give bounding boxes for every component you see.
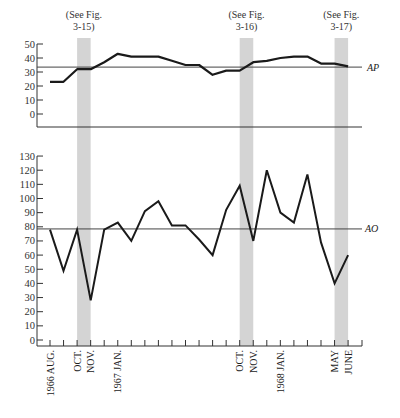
y-tick-label: 130 bbox=[19, 151, 35, 162]
y-tick-label: 20 bbox=[25, 81, 36, 92]
y-tick-label: 10 bbox=[25, 320, 36, 331]
figure-reference-note: (See Fig. bbox=[228, 9, 264, 21]
highlight-band bbox=[77, 38, 91, 346]
y-tick-label: 40 bbox=[25, 278, 36, 289]
chart-canvas: (See Fig.3-15)(See Fig.3-16)(See Fig.3-1… bbox=[0, 0, 400, 418]
y-tick-label: 50 bbox=[25, 264, 36, 275]
y-tick-label: 80 bbox=[25, 221, 36, 232]
ao-series-line bbox=[50, 170, 348, 300]
chart-figure: (See Fig.3-15)(See Fig.3-16)(See Fig.3-1… bbox=[0, 0, 400, 418]
figure-reference-note: 3-15) bbox=[73, 21, 95, 33]
y-tick-label: 10 bbox=[25, 95, 36, 106]
y-tick-label: 20 bbox=[25, 306, 36, 317]
y-tick-label: 40 bbox=[25, 53, 36, 64]
y-tick-label: 110 bbox=[20, 179, 35, 190]
x-tick-label: OCT. bbox=[234, 350, 245, 372]
y-tick-label: 50 bbox=[25, 39, 36, 50]
ap-reference-label: AP bbox=[366, 62, 379, 73]
y-tick-label: 30 bbox=[25, 292, 36, 303]
y-tick-label: 0 bbox=[30, 109, 35, 120]
highlight-band bbox=[335, 38, 349, 346]
data-series bbox=[50, 54, 348, 301]
x-tick-label: NOV. bbox=[248, 350, 259, 373]
y-tick-label: 100 bbox=[19, 193, 35, 204]
x-tick-label: NOV. bbox=[85, 350, 96, 373]
ao-reference-label: AO bbox=[364, 223, 378, 234]
y-tick-label: 30 bbox=[25, 67, 36, 78]
figure-reference-note: (See Fig. bbox=[323, 9, 359, 21]
y-tick-label: 120 bbox=[19, 165, 35, 176]
x-axis: 1966 AUG.OCT.NOV.1967 JAN.OCT.NOV.1968 J… bbox=[37, 340, 362, 396]
figure-reference-note: 3-16) bbox=[236, 21, 258, 33]
x-tick-label: MAY bbox=[329, 350, 340, 372]
x-tick-label: 1967 JAN. bbox=[112, 350, 123, 393]
figure-reference-notes: (See Fig.3-15)(See Fig.3-16)(See Fig.3-1… bbox=[66, 9, 360, 33]
figure-reference-note: (See Fig. bbox=[66, 9, 102, 21]
ap-series-line bbox=[50, 54, 348, 82]
upper-y-axis: 01020304050 bbox=[25, 39, 363, 128]
highlight-bands bbox=[77, 38, 348, 346]
x-tick-label: OCT. bbox=[72, 350, 83, 372]
y-tick-label: 0 bbox=[30, 335, 35, 346]
x-tick-label: 1966 AUG. bbox=[45, 350, 56, 396]
lower-y-axis: 0102030405060708090100110120130 bbox=[19, 151, 43, 346]
x-tick-label: JUNE bbox=[343, 350, 354, 374]
figure-reference-note: 3-17) bbox=[330, 21, 352, 33]
x-tick-label: 1968 JAN. bbox=[275, 350, 286, 393]
y-tick-label: 60 bbox=[25, 250, 36, 261]
y-tick-label: 70 bbox=[25, 235, 36, 246]
y-tick-label: 90 bbox=[25, 207, 36, 218]
